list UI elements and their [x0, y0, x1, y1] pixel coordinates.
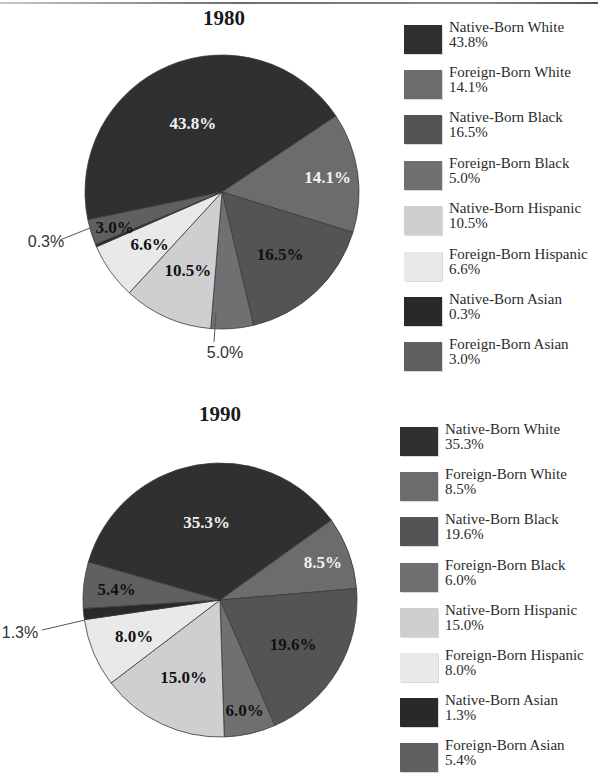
legend-item-foreign-born-asian: Foreign-Born Asian5.4%: [400, 738, 594, 774]
legend-value: 8.0%: [445, 662, 476, 678]
pie-chart-1980: 43.8%14.1%16.5%5.0%10.5%6.6%0.3%3.0%: [0, 0, 598, 390]
leader-line: [60, 228, 90, 240]
legend-label: Foreign-Born White: [445, 466, 567, 482]
legend-label: Foreign-Born White: [449, 64, 571, 80]
legend-label: Native-Born Hispanic: [445, 602, 577, 618]
slice-value-label: 1.3%: [2, 624, 38, 641]
legend-value: 43.8%: [449, 34, 488, 50]
legend-item-foreign-born-white: Foreign-Born White8.5%: [400, 467, 594, 503]
legend-swatch: [404, 297, 442, 326]
legend-swatch: [404, 70, 442, 99]
legend-swatch: [400, 427, 438, 456]
legend-label: Foreign-Born Hispanic: [445, 647, 584, 663]
slice-value-label: 5.4%: [97, 580, 135, 599]
legend-item-foreign-born-asian: Foreign-Born Asian3.0%: [404, 337, 598, 373]
slice-value-label: 43.8%: [170, 114, 217, 133]
slice-value-label: 8.0%: [115, 627, 153, 646]
legend-item-native-born-black: Native-Born Black19.6%: [400, 512, 594, 548]
legend-label: Native-Born Black: [449, 109, 563, 125]
legend-item-native-born-black: Native-Born Black16.5%: [404, 110, 598, 146]
legend-label: Native-Born Black: [445, 511, 559, 527]
legend-item-foreign-born-hispanic: Foreign-Born Hispanic8.0%: [400, 648, 594, 684]
legend-item-native-born-white: Native-Born White35.3%: [400, 422, 594, 458]
legend-value: 10.5%: [449, 215, 488, 231]
legend-label: Native-Born Asian: [449, 291, 562, 307]
slice-value-label: 5.0%: [207, 344, 243, 361]
legend-swatch: [404, 161, 442, 190]
slice-value-label: 16.5%: [257, 245, 304, 264]
legend-label: Foreign-Born Asian: [449, 336, 569, 352]
legend-swatch: [400, 608, 438, 637]
legend-item-native-born-hispanic: Native-Born Hispanic10.5%: [404, 201, 598, 237]
legend-swatch: [400, 517, 438, 546]
legend-item-foreign-born-hispanic: Foreign-Born Hispanic6.6%: [404, 247, 598, 283]
legend-value: 0.3%: [449, 306, 480, 322]
legend-value: 16.5%: [449, 124, 488, 140]
legend-label: Foreign-Born Black: [445, 557, 565, 573]
legend-value: 3.0%: [449, 351, 480, 367]
legend-value: 19.6%: [445, 526, 484, 542]
legend-value: 6.6%: [449, 261, 480, 277]
legend-item-native-born-asian: Native-Born Asian1.3%: [400, 693, 594, 729]
legend-swatch: [400, 698, 438, 727]
slice-value-label: 10.5%: [165, 261, 212, 280]
legend-value: 8.5%: [445, 481, 476, 497]
slice-value-label: 8.5%: [304, 553, 342, 572]
legend-value: 15.0%: [445, 617, 484, 633]
legend-item-foreign-born-black: Foreign-Born Black6.0%: [400, 558, 594, 594]
leader-line: [42, 620, 85, 630]
slice-value-label: 35.3%: [183, 513, 230, 532]
legend-label: Native-Born White: [449, 19, 564, 35]
slice-value-label: 3.0%: [95, 218, 133, 237]
slice-value-label: 6.0%: [226, 701, 264, 720]
legend-swatch: [400, 563, 438, 592]
legend-value: 5.0%: [449, 170, 480, 186]
legend-swatch: [404, 206, 442, 235]
legend-item-native-born-hispanic: Native-Born Hispanic15.0%: [400, 603, 594, 639]
legend-value: 35.3%: [445, 436, 484, 452]
legend-swatch: [404, 25, 442, 54]
legend-swatch: [400, 743, 438, 772]
slice-value-label: 6.6%: [130, 235, 168, 254]
legend-swatch: [400, 472, 438, 501]
legend-item-foreign-born-white: Foreign-Born White14.1%: [404, 65, 598, 101]
slice-value-label: 14.1%: [304, 168, 351, 187]
legend-label: Native-Born White: [445, 421, 560, 437]
legend-label: Native-Born Hispanic: [449, 200, 581, 216]
legend-swatch: [404, 342, 442, 371]
legend-swatch: [400, 653, 438, 682]
slice-value-label: 15.0%: [160, 668, 207, 687]
legend-label: Foreign-Born Asian: [445, 737, 565, 753]
slice-value-label: 0.3%: [28, 233, 64, 250]
legend-value: 14.1%: [449, 79, 488, 95]
legend-swatch: [404, 115, 442, 144]
legend-item-native-born-asian: Native-Born Asian0.3%: [404, 292, 598, 328]
legend-label: Foreign-Born Hispanic: [449, 246, 588, 262]
legend-item-native-born-white: Native-Born White43.8%: [404, 20, 598, 56]
legend-value: 5.4%: [445, 752, 476, 768]
slice-value-label: 19.6%: [270, 635, 317, 654]
legend-label: Native-Born Asian: [445, 692, 558, 708]
legend-label: Foreign-Born Black: [449, 155, 569, 171]
legend-value: 6.0%: [445, 572, 476, 588]
legend-item-foreign-born-black: Foreign-Born Black5.0%: [404, 156, 598, 192]
legend-value: 1.3%: [445, 707, 476, 723]
legend-swatch: [404, 252, 442, 281]
